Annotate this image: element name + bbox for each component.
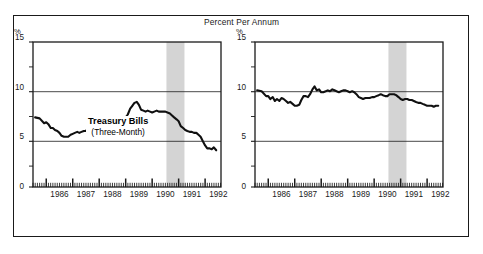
x-tick-1989: 1989 — [125, 190, 153, 199]
recession-shading-left — [166, 42, 184, 187]
x-tick-1986: 1986 — [267, 190, 295, 199]
series-label-line2: (Three-Month) — [88, 127, 148, 137]
y-tick-5-right: 5 — [228, 133, 246, 141]
x-tick-1988: 1988 — [320, 190, 348, 199]
x-tick-1989: 1989 — [347, 190, 375, 199]
x-tick-1986: 1986 — [45, 190, 73, 199]
x-tick-1991: 1991 — [400, 190, 428, 199]
y-tick-5-left: 5 — [6, 133, 24, 141]
figure-root: Percent Per Annum % 15 10 5 0 — [0, 0, 483, 254]
y-tick-15-right: 15 — [228, 34, 246, 42]
series-label-line1: Treasury Bills — [88, 116, 148, 127]
x-tick-1991: 1991 — [178, 190, 206, 199]
plot-area-corporate-aaa — [251, 38, 447, 206]
x-tick-1988: 1988 — [98, 190, 126, 199]
panel-treasury-bills: % 15 10 5 0 — [29, 38, 225, 206]
y-tick-15-left: 15 — [6, 34, 24, 42]
y-tick-0-right: 0 — [228, 183, 246, 191]
figure-title: Percent Per Annum — [0, 17, 483, 27]
x-tick-1990: 1990 — [151, 190, 179, 199]
x-tick-1987: 1987 — [72, 190, 100, 199]
y-tick-10-right: 10 — [228, 84, 246, 92]
x-axis-minor-ticks-right — [255, 179, 443, 188]
y-tick-10-left: 10 — [6, 84, 24, 92]
data-line-corporate-aaa — [257, 86, 438, 106]
recession-shading-right — [388, 42, 406, 187]
panel-corporate-aaa: % 15 10 5 0 — [251, 38, 447, 206]
x-tick-1990: 1990 — [373, 190, 401, 199]
axis-lines-right — [255, 42, 443, 187]
x-axis-minor-ticks-left — [33, 179, 221, 188]
y-tick-0-left: 0 — [6, 183, 24, 191]
x-tick-1987: 1987 — [294, 190, 322, 199]
x-tick-1992: 1992 — [426, 190, 454, 199]
x-tick-1992: 1992 — [204, 190, 232, 199]
series-label-treasury-bills: Treasury Bills (Three-Month) — [86, 116, 150, 137]
